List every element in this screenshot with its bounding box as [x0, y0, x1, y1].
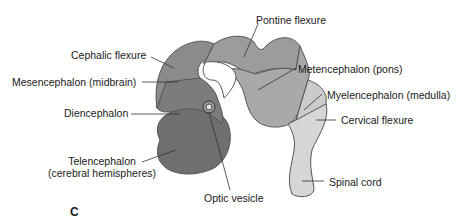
embryonic-brain-diagram: Pontine flexure Cephalic flexure Mesence… — [0, 0, 462, 221]
label-telencephalon-line2: (cerebral hemispheres) — [46, 167, 158, 179]
label-myelencephalon: Myelencephalon (medulla) — [327, 89, 450, 101]
label-metencephalon: Metencephalon (pons) — [298, 63, 402, 75]
label-cephalic-flexure: Cephalic flexure — [71, 49, 146, 61]
label-pontine-flexure: Pontine flexure — [256, 14, 326, 26]
label-telencephalon-line1: Telencephalon — [46, 155, 158, 167]
label-mesencephalon: Mesencephalon (midbrain) — [12, 76, 136, 88]
label-telencephalon: Telencephalon (cerebral hemispheres) — [46, 155, 158, 179]
label-spinal-cord: Spinal cord — [329, 176, 382, 188]
panel-letter: C — [70, 205, 79, 219]
label-cervical-flexure: Cervical flexure — [341, 114, 413, 126]
label-optic-vesicle: Optic vesicle — [204, 192, 264, 204]
label-diencephalon: Diencephalon — [64, 107, 128, 119]
optic-vesicle-inner-icon — [206, 104, 212, 110]
